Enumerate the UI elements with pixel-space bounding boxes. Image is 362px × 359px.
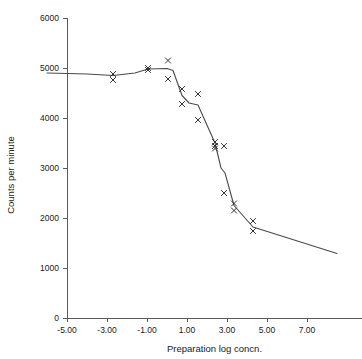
fitted-curve (47, 69, 337, 254)
x-tick-label: 5.00 (259, 325, 276, 335)
x-tick-label: -3.00 (97, 325, 117, 335)
data-point-marker (250, 228, 255, 233)
y-tick-label: 6000 (40, 13, 59, 23)
x-axis-ticks: -5.00-3.00-1.001.003.005.007.00 (57, 318, 315, 335)
data-point-marker (110, 77, 115, 82)
x-tick-label: 3.00 (219, 325, 236, 335)
y-tick-label: 3000 (40, 163, 59, 173)
x-tick-label: -1.00 (137, 325, 157, 335)
scatter-plot-canvas: 0100020003000400050006000 -5.00-3.00-1.0… (0, 0, 362, 359)
chart-figure: 0100020003000400050006000 -5.00-3.00-1.0… (0, 0, 362, 359)
y-tick-label: 1000 (40, 263, 59, 273)
data-point-marker (221, 143, 226, 148)
data-point-marker (165, 58, 170, 63)
data-point-markers (110, 58, 255, 234)
y-axis-title: Counts per minute (5, 136, 16, 214)
data-point-marker (195, 117, 200, 122)
x-tick-label: -5.00 (57, 325, 77, 335)
data-point-marker (179, 101, 184, 106)
data-point-marker (165, 76, 170, 81)
y-tick-label: 0 (54, 313, 59, 323)
y-tick-label: 5000 (40, 63, 59, 73)
y-axis-ticks: 0100020003000400050006000 (40, 13, 67, 323)
data-point-marker (250, 218, 255, 223)
y-tick-label: 2000 (40, 213, 59, 223)
data-point-marker (231, 208, 236, 213)
data-point-marker (221, 190, 226, 195)
x-axis-title: Preparation log concn. (167, 343, 262, 354)
cropped-title-fragment (0, 0, 362, 7)
y-tick-label: 4000 (40, 113, 59, 123)
x-tick-label: 1.00 (179, 325, 196, 335)
data-point-marker (195, 91, 200, 96)
x-tick-label: 7.00 (299, 325, 316, 335)
